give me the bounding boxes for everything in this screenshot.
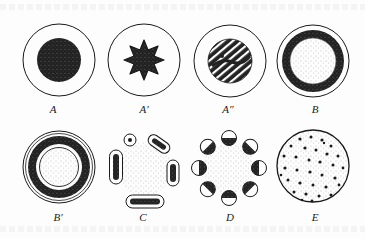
label-b: B	[312, 104, 319, 115]
label-a: A	[50, 104, 57, 115]
label-a-double-prime: A″	[222, 104, 233, 115]
label-d: D	[226, 212, 234, 223]
panel-b-prime	[23, 131, 95, 203]
label-c: C	[139, 212, 146, 223]
label-a-prime: A′	[139, 104, 148, 115]
figure: A A′ A″ B B′ C D E	[0, 0, 365, 239]
panel-a	[23, 24, 95, 96]
panel-b	[277, 25, 349, 97]
panel-a-double-prime	[194, 25, 266, 97]
panel-a-prime	[108, 24, 180, 96]
diagram-canvas	[0, 0, 365, 239]
label-b-prime: B′	[53, 212, 62, 223]
panel-e	[277, 130, 349, 202]
panel-d	[192, 131, 267, 206]
panel-c	[110, 133, 180, 210]
label-e: E	[312, 212, 319, 223]
